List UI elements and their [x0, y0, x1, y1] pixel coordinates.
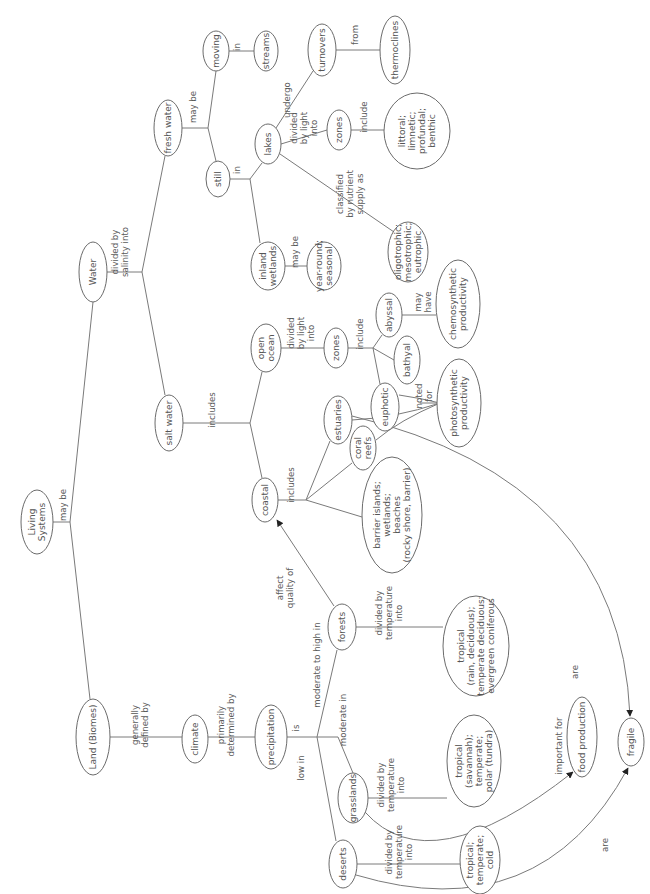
node-inland-wetlands: inlandwetlands [251, 242, 285, 290]
node-label: littoral; [397, 115, 407, 147]
node-open-ocean: openocean [251, 324, 281, 372]
node-label: productivity [458, 276, 468, 330]
link-label-line: includes [207, 392, 217, 428]
node-label: lakes [263, 132, 273, 155]
node-label: Land (Biomes) [88, 704, 98, 769]
node-living-systems: LivingSystems [21, 490, 53, 554]
link-label-may-be-root: may be [58, 489, 68, 521]
link-label-line: by light [296, 316, 306, 349]
node-grasslands: grasslands [338, 773, 368, 823]
node-label: Water [88, 258, 98, 285]
link-label-line: into [394, 605, 404, 621]
edge-junction-wetlands [250, 179, 260, 243]
link-label-line: in [232, 166, 242, 174]
link-label-from: from [350, 25, 360, 45]
link-label-still-in: in [232, 166, 242, 174]
node-turnovers: turnovers [308, 24, 336, 76]
node-label: ocean [266, 334, 276, 361]
node-label: climate [190, 722, 200, 756]
node-label: (rain, deciduous); [466, 606, 476, 685]
node-precipitation: precipitation [255, 705, 287, 769]
link-label-line: salinity into [120, 227, 130, 277]
node-label: wetlands; [382, 493, 392, 537]
node-abyssal: abyssal [376, 293, 402, 337]
node-label: (savannah); [464, 734, 474, 788]
edge-junction-water [70, 302, 93, 522]
node-lake-zone-types: littoral;limnetic;profundal;benthic [384, 93, 450, 169]
node-grassland-types: tropical(savannah);temperate;polar (tund… [447, 715, 501, 807]
node-forest-types: tropical(rain, deciduous);temperate deci… [443, 596, 509, 696]
link-label-line: may be [290, 236, 300, 268]
node-label: productivity [459, 375, 469, 429]
link-label-line: temperature [386, 758, 396, 812]
node-moving: moving [203, 31, 229, 71]
node-label: open [256, 337, 266, 359]
node-bathyal: bathyal [394, 336, 420, 384]
node-euphotic: euphotic [371, 383, 399, 431]
node-label: temperate; [475, 835, 485, 885]
edge-junction-land [70, 522, 90, 699]
link-label-line: into [396, 777, 406, 793]
node-trophic: oligotrophic;mesotrophic;eutrophic [388, 222, 428, 282]
node-label: Systems [37, 503, 47, 542]
link-label-line: includes [286, 467, 296, 503]
node-label: zones [334, 117, 344, 143]
node-label: mesotrophic; [403, 223, 413, 282]
link-label-line: are [570, 665, 580, 679]
node-coastal: coastal [252, 478, 278, 522]
link-label-line: into [306, 325, 316, 341]
link-label-line: affect [275, 575, 285, 600]
node-ocean-zones: zones [324, 328, 348, 368]
link-label-line: temperature [384, 586, 394, 640]
link-label-coastal-includes: includes [286, 467, 296, 503]
node-climate: climate [182, 715, 208, 763]
node-label: eutrophic [413, 231, 423, 274]
link-label-line: divided by [374, 591, 384, 636]
node-label: (rocky shore, barrier) [402, 468, 412, 563]
node-label: temperate; [474, 736, 484, 786]
node-label: inland [258, 252, 268, 280]
node-label: coral [353, 437, 363, 459]
edge-junction-abyssal [373, 335, 382, 348]
node-label: limnetic; [407, 111, 417, 150]
link-label-line: classified [335, 174, 345, 214]
link-label-lake-include: include [359, 101, 369, 132]
link-label-line: by light [299, 111, 309, 144]
link-label-is: is [291, 724, 301, 731]
node-label: year-round; [314, 240, 324, 292]
link-label-line: moderate in [338, 694, 348, 746]
edge-junction-openocean [250, 372, 262, 423]
node-label: moving [211, 34, 221, 68]
node-label: abyssal [384, 298, 394, 332]
node-label: polar (tundra) [484, 730, 494, 793]
node-water: Water [79, 242, 107, 302]
edge-junction-moving [208, 71, 216, 128]
link-label-line: divided by [384, 830, 394, 875]
link-label-line: divided [289, 112, 299, 144]
link-label-grass-divided-temp: divided bytemperatureinto [376, 758, 406, 812]
node-label: salt water [164, 400, 174, 445]
node-lake-zones: zones [327, 110, 351, 150]
edge-junction-euphotic [373, 348, 380, 384]
node-label: grasslands [348, 773, 358, 822]
link-label-line: in [232, 43, 242, 51]
concept-map: LivingSystemsWaterLand (Biomes)fresh wat… [0, 0, 650, 894]
node-lakes: lakes [255, 124, 281, 164]
link-label-low: low in [296, 755, 306, 780]
link-label-line: low in [296, 755, 306, 780]
node-fragile: fragile [618, 718, 644, 766]
node-food-production: food production [567, 697, 597, 777]
node-desert-types: tropical;temperate;cold [460, 826, 500, 894]
link-label-may-have: mayhave [413, 291, 433, 312]
edge-junction-lakes [250, 163, 262, 179]
link-label-line: primarily [216, 706, 226, 744]
link-label-primarily-determined: primarilydetermined by [216, 693, 236, 756]
node-label: deserts [338, 847, 348, 881]
node-thermoclines: thermoclines [380, 16, 410, 84]
link-label-line: may be [188, 91, 198, 123]
link-label-line: supply as [355, 173, 365, 214]
node-label: fresh water [163, 102, 173, 153]
node-streams: streams [254, 31, 278, 71]
node-label: streams [261, 33, 271, 70]
edge-junction-bathyal [373, 348, 394, 360]
